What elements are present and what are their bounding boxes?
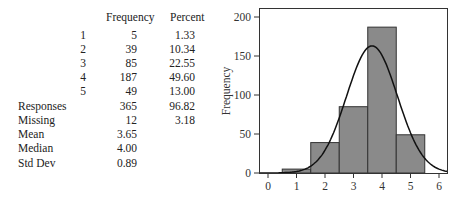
x-axis: 0123456 xyxy=(265,174,442,193)
x-tick-label: 5 xyxy=(408,180,414,192)
x-tick-label: 0 xyxy=(265,180,271,192)
histogram-chart: 050100150200 0123456 Frequency xyxy=(0,0,468,197)
histogram-bar xyxy=(311,143,340,173)
y-tick-label: 100 xyxy=(234,89,252,101)
x-tick-label: 2 xyxy=(322,180,328,192)
y-tick-label: 200 xyxy=(234,11,252,23)
x-tick-label: 1 xyxy=(294,180,300,192)
y-tick-label: 50 xyxy=(240,128,252,140)
y-tick-label: 0 xyxy=(245,167,251,179)
histogram-bars xyxy=(282,27,425,173)
y-axis: 050100150200 xyxy=(234,11,260,179)
x-tick-label: 4 xyxy=(379,180,385,192)
histogram-bar xyxy=(396,135,425,173)
histogram-bar xyxy=(339,107,368,173)
x-tick-label: 6 xyxy=(436,180,442,192)
histogram-bar xyxy=(368,27,397,173)
x-tick-label: 3 xyxy=(351,180,357,192)
y-axis-label: Frequency xyxy=(220,66,233,115)
y-tick-label: 150 xyxy=(234,50,252,62)
